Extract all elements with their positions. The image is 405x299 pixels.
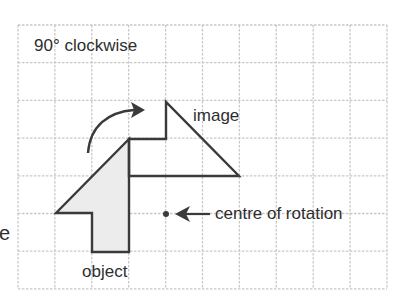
diagram-title: 90° clockwise [34, 37, 137, 54]
centre-of-rotation-point [163, 211, 169, 217]
grid [18, 25, 387, 289]
object-label: object [82, 263, 127, 280]
cropped-text-fragment: e [0, 223, 10, 243]
object-shape [56, 139, 129, 252]
rotation-diagram: 90° clockwise image centre of rotation o… [0, 0, 405, 299]
centre-of-rotation-label: centre of rotation [215, 205, 343, 222]
image-label: image [193, 107, 239, 124]
